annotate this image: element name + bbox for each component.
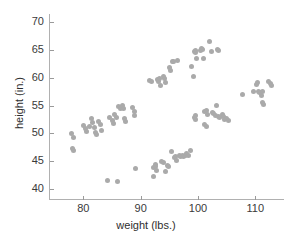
y-tick-mark xyxy=(50,78,54,79)
scatter-point xyxy=(204,124,209,129)
scatter-point xyxy=(98,122,103,127)
scatter-point xyxy=(84,129,89,134)
scatter-point xyxy=(226,118,231,123)
scatter-point xyxy=(207,39,212,44)
x-tick-mark xyxy=(83,196,84,200)
y-tick-mark xyxy=(50,106,54,107)
y-tick-label: 40 xyxy=(14,182,44,194)
scatter-point xyxy=(191,74,196,79)
x-tick-label: 80 xyxy=(68,202,98,214)
scatter-point xyxy=(200,47,205,52)
x-tick-mark xyxy=(255,196,256,200)
scatter-point xyxy=(216,48,221,53)
scatter-point xyxy=(94,132,99,137)
y-tick-label: 70 xyxy=(14,15,44,27)
scatter-point xyxy=(269,83,274,88)
x-axis-label: weight (lbs.) xyxy=(0,219,292,231)
scatter-point xyxy=(205,112,210,117)
scatter-point xyxy=(121,106,126,111)
scatter-point xyxy=(105,178,110,183)
y-tick-mark xyxy=(50,50,54,51)
scatter-point xyxy=(186,153,191,158)
x-tick-mark xyxy=(141,196,142,200)
scatter-point xyxy=(175,58,180,63)
scatter-point xyxy=(115,179,120,184)
y-tick-mark xyxy=(50,22,54,23)
plot-area xyxy=(49,14,284,200)
scatter-point xyxy=(168,68,173,73)
scatter-point xyxy=(255,80,260,85)
y-tick-mark xyxy=(50,133,54,134)
scatter-point xyxy=(111,121,116,126)
x-tick-mark xyxy=(198,196,199,200)
scatter-point xyxy=(260,89,265,94)
scatter-point xyxy=(240,92,245,97)
scatter-point xyxy=(149,79,154,84)
scatter-point xyxy=(166,164,171,169)
scatter-point xyxy=(123,119,128,124)
x-tick-label: 90 xyxy=(126,202,156,214)
scatter-point xyxy=(163,169,168,174)
scatter-point xyxy=(114,115,119,120)
scatter-point xyxy=(209,49,214,54)
y-tick-mark xyxy=(50,189,54,190)
scatter-point xyxy=(194,56,199,61)
scatter-point xyxy=(154,168,159,173)
scatter-point xyxy=(99,128,104,133)
scatter-point xyxy=(71,135,76,140)
scatter-point xyxy=(169,149,174,154)
scatter-point xyxy=(201,56,206,61)
scatter-point xyxy=(214,103,219,108)
x-tick-label: 100 xyxy=(183,202,213,214)
scatter-point xyxy=(189,64,194,69)
scatter-point xyxy=(261,102,266,107)
y-axis-label: height (in.) xyxy=(13,48,25,158)
scatter-point xyxy=(193,117,198,122)
scatter-point xyxy=(163,80,168,85)
scatter-point xyxy=(133,166,138,171)
scatter-plot-figure: 8090100110 40455055606570 weight (lbs.) … xyxy=(0,0,292,240)
x-tick-label: 110 xyxy=(240,202,270,214)
y-tick-mark xyxy=(50,161,54,162)
scatter-point xyxy=(132,113,137,118)
scatter-point xyxy=(188,148,193,153)
scatter-point xyxy=(71,148,76,153)
scatter-point xyxy=(151,174,156,179)
